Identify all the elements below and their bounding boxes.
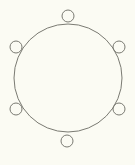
round-table-diagram <box>0 0 135 165</box>
seat-top-circle <box>62 10 74 22</box>
table-circle <box>14 24 122 132</box>
seat-bottom-left-circle <box>10 103 22 115</box>
seat-top-right-circle <box>113 41 125 53</box>
seat-bottom-circle <box>61 135 73 147</box>
seat-bottom-right-circle <box>113 103 125 115</box>
seat-top-left-circle <box>10 41 22 53</box>
